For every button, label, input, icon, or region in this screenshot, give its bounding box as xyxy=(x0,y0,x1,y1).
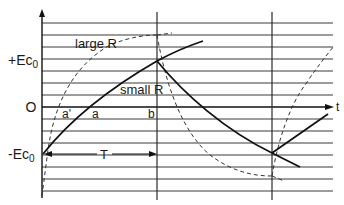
minus-ec0-label: -Ec0 xyxy=(8,146,35,164)
small-r-curve xyxy=(43,41,328,167)
time-axis-arrow-icon xyxy=(325,104,334,110)
arrow-right-icon xyxy=(149,151,157,157)
plus-ec0-label: +Ec0 xyxy=(8,52,39,70)
time-axis-label: t xyxy=(336,100,340,114)
large-r-curve xyxy=(42,33,334,196)
voltage-axis-arrow-icon xyxy=(39,9,45,17)
point-a-prime-label: a' xyxy=(62,107,71,121)
period-label: T xyxy=(100,147,108,162)
point-a-label: a xyxy=(92,107,99,121)
period-arrow: T xyxy=(44,147,157,162)
rc-waveform-diagram: T +Ec0 O -Ec0 large R small R a' a b t xyxy=(0,0,344,205)
large-r-label: large R xyxy=(75,36,117,51)
point-b-label: b xyxy=(148,107,155,121)
small-r-label: small R xyxy=(120,82,163,97)
voltage-axis xyxy=(39,9,45,198)
zero-label: O xyxy=(26,99,37,115)
